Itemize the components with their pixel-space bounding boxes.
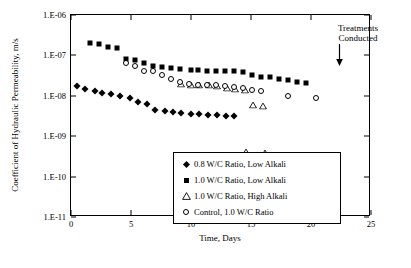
- x-tick-mark: [71, 210, 72, 215]
- y-tick-label: 1.E-11: [43, 212, 66, 222]
- data-point: [286, 77, 291, 82]
- data-point: [107, 91, 114, 98]
- y-tick-mark: [71, 95, 76, 96]
- data-point: [214, 68, 219, 73]
- annotation-line2: Conducted: [339, 33, 378, 43]
- data-point: [126, 94, 133, 101]
- x-tick-mark: [371, 210, 372, 215]
- data-point: [231, 84, 237, 90]
- data-point: [222, 83, 228, 89]
- y-tick-label: 1.E-09: [43, 131, 66, 141]
- data-point: [161, 107, 168, 114]
- data-point: [214, 112, 221, 119]
- data-point: [141, 68, 147, 74]
- legend-label-2: 1.0 W/C Ratio, High Alkali: [194, 191, 287, 201]
- y-tick-mark: [71, 136, 76, 137]
- annotation-line1: Treatments: [338, 23, 378, 33]
- data-point: [186, 81, 192, 87]
- legend-label-3: Control, 1.0 W/C Ratio: [194, 207, 273, 217]
- data-point: [150, 68, 156, 74]
- data-point: [313, 95, 319, 101]
- data-point: [195, 82, 201, 88]
- legend-item-0: 0.8 W/C Ratio, Low Alkali: [178, 156, 336, 172]
- filled-diamond-icon: [178, 162, 194, 167]
- data-point: [258, 88, 264, 94]
- x-tick-mark: [71, 15, 72, 20]
- y-tick-mark: [364, 15, 369, 16]
- legend-item-3: Control, 1.0 W/C Ratio: [178, 204, 336, 220]
- data-point: [177, 79, 183, 85]
- y-tick-mark: [71, 55, 76, 56]
- data-point: [168, 66, 173, 71]
- data-point: [240, 85, 246, 91]
- y-tick-mark: [364, 217, 369, 218]
- y-tick-mark: [71, 217, 76, 218]
- data-point: [204, 82, 210, 88]
- data-point: [304, 80, 309, 85]
- y-tick-mark: [364, 136, 369, 137]
- x-tick-label: 25: [367, 219, 376, 229]
- legend-label-1: 1.0 W/C Ratio, Low Alkali: [194, 175, 286, 185]
- x-tick-label: 0: [69, 219, 73, 229]
- data-point: [250, 73, 255, 78]
- legend-item-1: 1.0 W/C Ratio, Low Alkali: [178, 172, 336, 188]
- data-point: [135, 99, 142, 106]
- y-tick-mark: [71, 176, 76, 177]
- legend-item-2: 1.0 W/C Ratio, High Alkali: [178, 188, 336, 204]
- data-point: [196, 68, 201, 73]
- data-point: [187, 110, 194, 117]
- data-point: [258, 74, 263, 79]
- data-point: [285, 93, 291, 99]
- y-tick-label: 1.E-07: [43, 50, 66, 60]
- y-tick-mark: [364, 95, 369, 96]
- data-point: [294, 79, 299, 84]
- y-tick-mark: [364, 55, 369, 56]
- legend: 0.8 W/C Ratio, Low Alkali 1.0 W/C Ratio,…: [173, 152, 341, 224]
- plot-area: 1.E-061.E-071.E-081.E-091.E-101.E-11 051…: [70, 14, 370, 216]
- x-tick-mark: [311, 15, 312, 20]
- data-point: [240, 69, 245, 74]
- data-point: [196, 111, 203, 118]
- data-point: [204, 68, 209, 73]
- data-point: [117, 92, 124, 99]
- data-point: [249, 101, 257, 108]
- data-point: [178, 110, 185, 117]
- data-point: [169, 108, 176, 115]
- data-point: [168, 76, 174, 82]
- y-axis-label: Coefficient of Hydraulic Permeability, m…: [10, 14, 24, 216]
- y-tick-label: 1.E-10: [43, 172, 66, 182]
- data-point: [249, 87, 255, 93]
- data-point: [114, 45, 119, 50]
- data-point: [132, 63, 138, 69]
- open-circle-icon: [178, 209, 194, 215]
- data-point: [73, 83, 80, 90]
- open-triangle-icon: [178, 192, 194, 200]
- data-point: [268, 75, 273, 80]
- annotation-arrow-icon: [335, 44, 344, 66]
- data-point: [99, 89, 106, 96]
- data-point: [142, 60, 147, 65]
- x-tick-mark: [251, 15, 252, 20]
- data-point: [88, 41, 93, 46]
- y-tick-label: 1.E-08: [43, 91, 66, 101]
- data-point: [160, 64, 165, 69]
- x-tick-label: 5: [129, 219, 133, 229]
- y-tick-label: 1.E-06: [43, 10, 66, 20]
- data-point: [151, 106, 158, 113]
- legend-label-0: 0.8 W/C Ratio, Low Alkali: [194, 159, 286, 169]
- x-tick-mark: [371, 15, 372, 20]
- x-tick-mark: [191, 15, 192, 20]
- data-point: [213, 82, 219, 88]
- data-point: [82, 85, 89, 92]
- data-point: [106, 45, 111, 50]
- y-axis-label-wrapper: Coefficient of Hydraulic Permeability, m…: [0, 14, 14, 216]
- data-point: [143, 100, 150, 107]
- data-point: [189, 67, 194, 72]
- y-tick-mark: [364, 176, 369, 177]
- permeability-chart: Coefficient of Hydraulic Permeability, m…: [0, 0, 411, 268]
- data-point: [123, 60, 129, 66]
- data-point: [178, 67, 183, 72]
- data-point: [204, 111, 211, 118]
- data-point: [259, 103, 267, 110]
- data-point: [222, 112, 229, 119]
